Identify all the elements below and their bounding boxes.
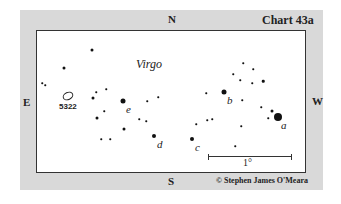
star-marker — [205, 92, 207, 94]
west-label: W — [312, 95, 323, 107]
star-marker — [239, 79, 241, 81]
star-marker — [44, 84, 46, 86]
star-marker — [123, 128, 126, 131]
star-marker — [63, 67, 66, 70]
star-c — [190, 137, 194, 141]
star-marker — [206, 119, 208, 121]
star-label-d: d — [157, 138, 163, 150]
star-marker — [271, 110, 274, 113]
constellation-label: Virgo — [136, 57, 162, 72]
star-marker — [262, 80, 265, 83]
east-label: E — [23, 96, 30, 108]
star-marker — [260, 106, 262, 108]
star-marker — [92, 97, 95, 100]
star-marker — [251, 82, 253, 84]
star-marker — [103, 110, 105, 112]
star-marker — [241, 99, 243, 101]
star-marker — [145, 120, 147, 122]
star-marker — [41, 82, 43, 84]
star-marker — [109, 138, 111, 140]
star-marker — [100, 138, 102, 140]
star-marker — [240, 125, 242, 127]
star-e — [121, 99, 126, 104]
star-marker — [252, 68, 254, 70]
star-marker — [211, 118, 213, 120]
star-marker — [138, 118, 140, 120]
star-label-a: a — [281, 119, 287, 131]
star-marker — [96, 117, 99, 120]
star-marker — [195, 123, 197, 125]
star-marker — [234, 145, 236, 147]
chart-title: Chart 43a — [262, 13, 314, 28]
copyright: © Stephen James O'Meara — [216, 176, 308, 185]
north-label: N — [168, 13, 176, 25]
star-marker — [157, 96, 159, 98]
star-marker — [267, 117, 269, 119]
star-marker — [146, 100, 148, 102]
star-label-e: e — [126, 103, 131, 115]
star-label-b: b — [227, 94, 233, 106]
star-marker — [232, 73, 234, 75]
star-marker — [242, 62, 244, 64]
star-d — [152, 134, 156, 138]
star-marker — [95, 91, 97, 93]
south-label: S — [168, 175, 174, 187]
star-marker — [105, 88, 107, 90]
star-label-c: c — [195, 141, 200, 153]
scale-label: 1° — [243, 157, 252, 168]
star-marker — [91, 49, 94, 52]
galaxy-label: 5322 — [59, 102, 77, 111]
star-b — [222, 90, 227, 95]
